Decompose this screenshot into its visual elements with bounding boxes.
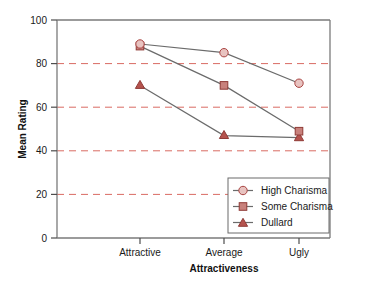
y-axis-title: Mean Rating [17,99,28,158]
marker-some-ugly [295,127,303,135]
y-tick-marks [51,20,57,238]
ytick-label-20: 20 [36,189,48,200]
marker-high-attractive [136,40,144,48]
line-chart: 0 20 40 60 80 100 Attractive Average Ugl… [0,0,371,287]
marker-some-average [220,82,228,90]
ytick-label-40: 40 [36,145,48,156]
chart-container: 0 20 40 60 80 100 Attractive Average Ugl… [0,0,371,287]
ytick-label-80: 80 [36,58,48,69]
x-tick-marks [140,238,299,244]
legend: High Charisma Some Charisma Dullard [228,178,333,233]
legend-marker-circle-icon [239,186,247,194]
xtick-label-attractive: Attractive [119,247,161,258]
ytick-label-0: 0 [41,233,47,244]
ytick-label-60: 60 [36,102,48,113]
marker-high-ugly [295,79,303,87]
legend-label-some-charisma: Some Charisma [261,201,333,212]
legend-marker-square-icon [239,203,247,211]
legend-label-dullard: Dullard [261,217,293,228]
legend-label-high-charisma: High Charisma [261,185,328,196]
xtick-label-average: Average [205,247,243,258]
x-axis-title: Attractiveness [190,263,259,274]
ytick-label-100: 100 [30,15,47,26]
xtick-label-ugly: Ugly [289,247,309,258]
marker-high-average [220,49,228,57]
